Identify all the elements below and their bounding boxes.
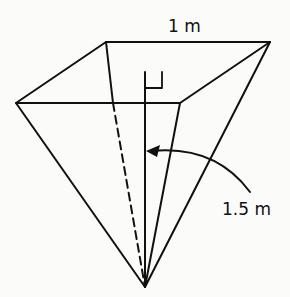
top-base-face	[16, 42, 270, 103]
edge-back-left-hidden	[113, 103, 145, 287]
inverted-pyramid-diagram	[0, 0, 290, 297]
top-edge-label: 1 m	[168, 18, 201, 35]
edge-back-left-visible	[106, 42, 113, 103]
edge-front-left	[16, 103, 145, 287]
right-angle-marker	[145, 72, 162, 88]
arrowhead-icon	[146, 145, 160, 157]
edge-front-right	[145, 103, 180, 287]
height-label: 1.5 m	[222, 201, 271, 218]
edge-back-right	[145, 42, 270, 287]
